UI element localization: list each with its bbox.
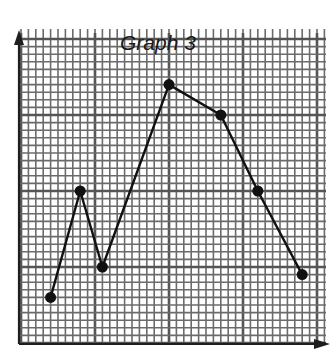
data-point-marker: [97, 262, 108, 273]
graph-paper-grid: [19, 29, 326, 344]
line-chart: Graph 3: [0, 0, 336, 356]
axes: [14, 30, 330, 349]
data-point-marker: [75, 186, 86, 197]
data-point-marker: [45, 292, 56, 303]
data-point-marker: [164, 79, 175, 90]
data-point-marker: [252, 186, 263, 197]
y-axis-arrow-icon: [14, 30, 24, 45]
x-axis-arrow-icon: [314, 339, 330, 349]
data-point-marker: [297, 269, 308, 280]
data-point-marker: [215, 110, 226, 121]
chart-title: Graph 3: [120, 31, 196, 54]
